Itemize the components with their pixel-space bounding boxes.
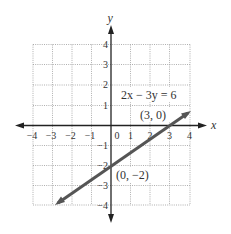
y-tick: 1 [103, 100, 108, 111]
y-tick: 3 [103, 59, 108, 70]
x-tick: 0 [115, 130, 120, 141]
y-tick: 4 [103, 39, 108, 50]
x-tick: 1 [128, 130, 133, 141]
x-tick: −1 [85, 130, 96, 141]
y-tick: 2 [103, 79, 108, 90]
x-tick: 4 [187, 130, 192, 141]
y-tick: −4 [97, 200, 108, 211]
x-tick: 3 [167, 130, 172, 141]
x-tick: −2 [65, 130, 76, 141]
y-tick: −3 [97, 180, 108, 191]
x-tick: −3 [46, 130, 57, 141]
y-axis-down-arrow-icon [108, 214, 114, 223]
y-axis-label: y [107, 11, 114, 25]
y-tick-labels: 4 3 2 1 −1 −2 −3 −4 [97, 39, 108, 211]
x-tick-labels: −4 −3 −2 −1 0 1 2 3 4 [27, 130, 192, 141]
y-intercept-label: (0, −2) [116, 168, 149, 182]
x-tick: −4 [27, 130, 38, 141]
equation-label: 2x − 3y = 6 [121, 88, 177, 102]
x-axis-label: x [210, 118, 217, 132]
y-axis-up-arrow-icon [108, 25, 114, 34]
x-axis-left-arrow-icon [15, 123, 24, 129]
x-intercept-label: (3, 0) [140, 108, 166, 122]
y-tick: −1 [97, 140, 108, 151]
coordinate-plane: x y −4 −3 −2 −1 0 1 2 3 4 4 3 2 1 −1 −2 … [0, 0, 231, 234]
x-axis-right-arrow-icon [198, 123, 207, 129]
